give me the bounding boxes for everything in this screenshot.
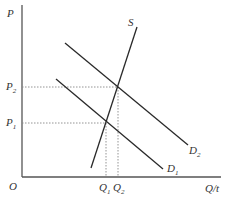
q2-label-sub: 2 — [121, 188, 125, 196]
supply-demand-chart: P Q/t O S D1 D2 P2 P1 Q1 Q2 — [0, 0, 226, 204]
q1-label-main: Q — [99, 181, 107, 193]
p1-label: P1 — [5, 116, 16, 131]
demand-curve-d1 — [56, 79, 163, 169]
p1-label-sub: 1 — [13, 123, 17, 131]
p2-label: P2 — [5, 80, 17, 95]
x-axis-label: Q/t — [205, 182, 220, 194]
d2-label: D2 — [188, 144, 201, 159]
q1-label-sub: 1 — [107, 188, 111, 196]
d2-label-main: D — [188, 144, 197, 156]
y-axis-label: P — [6, 7, 14, 19]
d1-label-main: D — [166, 162, 175, 174]
d2-label-sub: 2 — [197, 151, 201, 159]
d1-label-sub: 1 — [175, 169, 179, 177]
d1-label: D1 — [166, 162, 178, 177]
q1-label: Q1 — [99, 181, 110, 196]
origin-label: O — [9, 180, 17, 192]
p2-label-sub: 2 — [13, 87, 17, 95]
q2-label: Q2 — [113, 181, 125, 196]
q2-label-main: Q — [113, 181, 121, 193]
supply-label: S — [128, 16, 134, 28]
chart-canvas: P Q/t O S D1 D2 P2 P1 Q1 Q2 — [0, 0, 226, 204]
